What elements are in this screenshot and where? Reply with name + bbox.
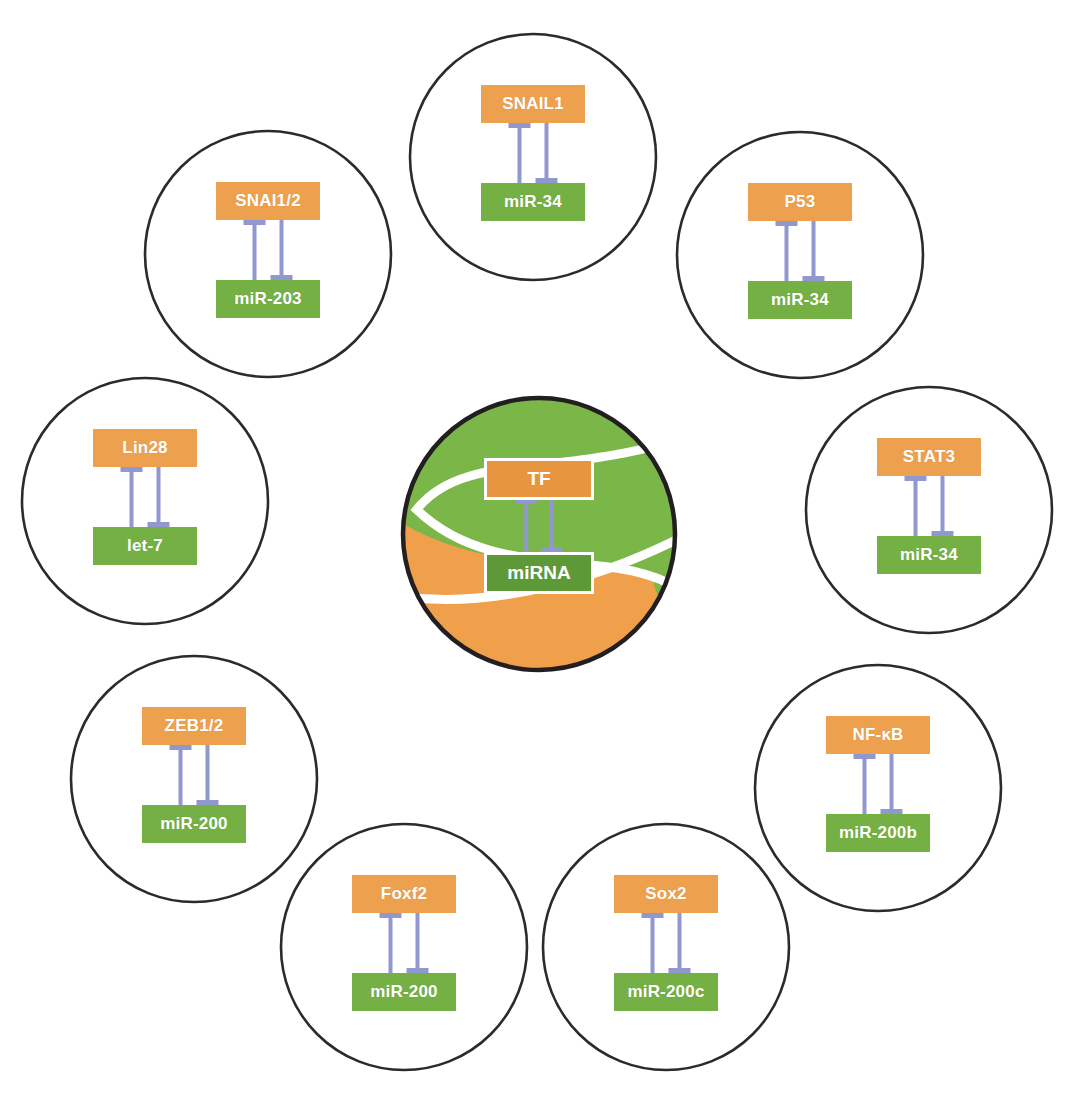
inhibition-stem-down: [253, 220, 257, 280]
mirna-box-foxf2[interactable]: miR-200: [352, 973, 456, 1011]
mutual-inhibition-arrows-nfkb: [850, 754, 906, 814]
inhibition-stem-up: [941, 476, 945, 536]
inhibition-stem-down: [130, 467, 134, 527]
tf-box-foxf2[interactable]: Foxf2: [352, 875, 456, 913]
tf-box-stat3[interactable]: STAT3: [877, 438, 981, 476]
mutual-inhibition-arrows-foxf2: [376, 913, 432, 973]
inhibition-stem-up: [157, 467, 161, 527]
inhibition-stem-up: [890, 754, 894, 814]
inhibition-stem-down: [518, 123, 522, 183]
mutual-inhibition-arrows-stat3: [901, 476, 957, 536]
mutual-inhibition-arrows-sox2: [638, 913, 694, 973]
inhibition-stem-down: [389, 913, 393, 973]
inhibition-stem-up: [812, 221, 816, 281]
inhibition-stem-up: [416, 913, 420, 973]
hub-mutual-inhibition-arrows: [513, 500, 565, 552]
tf-box-snail1[interactable]: SNAIL1: [481, 85, 585, 123]
mirna-box-sox2[interactable]: miR-200c: [614, 973, 718, 1011]
mirna-box-snai12[interactable]: miR-203: [216, 280, 320, 318]
inhibition-stem-up: [206, 745, 210, 805]
hub-mirna-box[interactable]: miRNA: [484, 552, 594, 594]
hub-tf-box[interactable]: TF: [484, 458, 594, 500]
hub-green-lower-wedge: [654, 576, 693, 659]
mirna-box-zeb12[interactable]: miR-200: [142, 805, 246, 843]
mutual-inhibition-arrows-zeb12: [166, 745, 222, 805]
inhibition-stem-down: [785, 221, 789, 281]
mirna-box-snail1[interactable]: miR-34: [481, 183, 585, 221]
inhibition-stem-down: [524, 500, 528, 552]
inhibition-stem-up: [678, 913, 682, 973]
mutual-inhibition-arrows-lin28: [117, 467, 173, 527]
inhibition-stem-up: [545, 123, 549, 183]
mirna-box-nfkb[interactable]: miR-200b: [826, 814, 930, 852]
tf-box-sox2[interactable]: Sox2: [614, 875, 718, 913]
tf-box-nfkb[interactable]: NF-κB: [826, 716, 930, 754]
tf-box-p53[interactable]: P53: [748, 183, 852, 221]
tf-box-zeb12[interactable]: ZEB1/2: [142, 707, 246, 745]
mutual-inhibition-arrows-snail1: [505, 123, 561, 183]
diagram-canvas: SNAIL1miR-34P53miR-34STAT3miR-34NF-κBmiR…: [0, 0, 1066, 1103]
mirna-box-p53[interactable]: miR-34: [748, 281, 852, 319]
inhibition-stem-up: [280, 220, 284, 280]
inhibition-stem-down: [651, 913, 655, 973]
mirna-box-lin28[interactable]: let-7: [93, 527, 197, 565]
tf-box-snai12[interactable]: SNAI1/2: [216, 182, 320, 220]
inhibition-stem-down: [179, 745, 183, 805]
inhibition-stem-up: [550, 500, 554, 552]
mutual-inhibition-arrows-p53: [772, 221, 828, 281]
mutual-inhibition-arrows-snai12: [240, 220, 296, 280]
mirna-box-stat3[interactable]: miR-34: [877, 536, 981, 574]
tf-box-lin28[interactable]: Lin28: [93, 429, 197, 467]
inhibition-stem-down: [914, 476, 918, 536]
inhibition-stem-down: [863, 754, 867, 814]
